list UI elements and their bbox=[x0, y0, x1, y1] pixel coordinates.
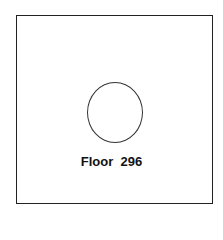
floor-label: Floor 296 bbox=[0, 154, 223, 169]
circle-shape bbox=[87, 82, 143, 143]
